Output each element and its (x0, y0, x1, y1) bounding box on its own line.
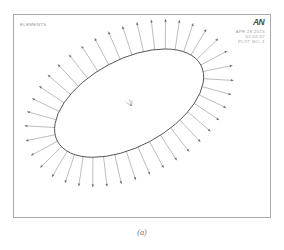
load-arrow-head (94, 38, 97, 41)
load-arrow (126, 151, 135, 179)
load-arrow-head (27, 110, 30, 113)
load-arrow-head (134, 177, 137, 180)
ellipse-boundary (37, 27, 221, 180)
load-arrow (151, 20, 154, 49)
load-arrow (104, 157, 107, 186)
load-arrow-head (231, 79, 234, 82)
load-arrow (201, 51, 227, 65)
load-arrow (25, 126, 55, 128)
load-arrow-head (31, 153, 34, 156)
load-arrow (58, 65, 78, 87)
load-arrow-head (32, 97, 35, 100)
load-arrow (82, 46, 98, 71)
load-arrow (202, 87, 231, 95)
load-arrow-head (25, 125, 28, 128)
load-arrow (40, 147, 61, 168)
load-arrow (188, 112, 211, 131)
load-arrow-head (107, 31, 110, 34)
load-arrow-head (105, 184, 108, 187)
plot-info-lines: APR 28 2015 02:02:57 PLOT NO. 1 (211, 29, 265, 45)
load-arrow (138, 147, 150, 174)
load-arrow (191, 29, 206, 55)
load-arrow (48, 75, 71, 94)
load-arrow-head (164, 19, 167, 21)
load-arrow-head (191, 23, 194, 26)
load-arrow (65, 155, 74, 183)
load-arrow-head (150, 20, 153, 23)
load-arrow-head (204, 29, 207, 32)
load-arrow-head (81, 45, 84, 48)
load-arrow (175, 20, 179, 49)
ansys-logo: AN (211, 18, 265, 27)
load-arrow (115, 155, 122, 184)
load-arrow (123, 27, 132, 55)
load-arrow (69, 55, 87, 78)
load-arrow (171, 128, 189, 151)
load-arrow-head (161, 165, 164, 168)
load-arrow (194, 103, 219, 120)
load-arrow (150, 142, 164, 168)
load-arrow-head (51, 174, 54, 177)
load-arrow-head (148, 172, 151, 175)
load-arrow (108, 32, 120, 59)
figure-container: · ·· ·· ELEMENTS AN APR 28 201 (0, 0, 284, 250)
load-arrow (203, 66, 232, 72)
load-arrow (95, 38, 109, 64)
load-arrow-head (39, 85, 42, 88)
load-arrow-head (224, 50, 227, 53)
load-arrow (32, 99, 59, 112)
plot-number: PLOT NO. 1 (211, 39, 265, 44)
load-arrow (204, 79, 234, 81)
load-arrow (31, 141, 57, 155)
load-arrow (184, 24, 193, 52)
figure-caption: (a) (0, 228, 284, 237)
load-arrow (161, 135, 177, 160)
load-arrow-head (223, 106, 226, 109)
load-arrow-head (121, 26, 124, 29)
load-arrow (79, 157, 83, 186)
scan-artifact-text: · ·· ·· (2, 1, 36, 8)
load-arrow-head (174, 157, 177, 160)
element-mesh-plot (14, 15, 270, 217)
plot-info-block: AN APR 28 2015 02:02:57 PLOT NO. 1 (211, 18, 265, 44)
load-arrow (137, 23, 144, 52)
load-arrow (180, 120, 200, 142)
load-arrow-head (92, 185, 95, 187)
ansys-plot-frame: ELEMENTS AN APR 28 2015 02:02:57 PLOT NO… (13, 14, 271, 218)
elements-title-label: ELEMENTS (20, 22, 46, 27)
load-arrow (52, 151, 67, 177)
load-arrow-head (216, 118, 219, 121)
load-arrow (39, 86, 64, 103)
load-arrow-head (228, 93, 231, 96)
load-arrow-head (64, 180, 67, 183)
load-arrow (26, 135, 55, 141)
load-arrow (199, 95, 226, 108)
load-arrow (27, 112, 56, 120)
